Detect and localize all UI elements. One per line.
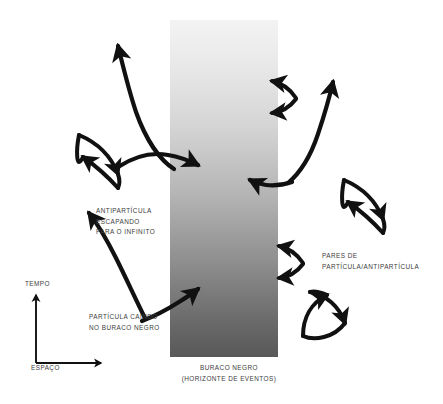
label-particle-falling: PARTÍCULA CAINDO NO BURACO NEGRO <box>89 312 160 333</box>
antiparticle-escape-trajectory <box>118 46 174 169</box>
label-antiparticle-escaping: ANTIPARTÍCULA ESCAPANDO PARA O INFINITO <box>96 206 155 238</box>
event-horizon-band <box>170 20 278 357</box>
particle-pair-loop <box>77 135 119 188</box>
hawking-radiation-diagram: ANTIPARTÍCULA ESCAPANDO PARA O INFINITO … <box>0 0 443 404</box>
particle-pair-loop <box>279 246 303 278</box>
axis-label-time: TEMPO <box>25 279 50 290</box>
particle-pair-loop <box>303 292 345 339</box>
axis-label-space: ESPAÇO <box>31 363 60 374</box>
particle-pair-loop <box>342 180 384 233</box>
diagram-canvas <box>0 0 443 404</box>
label-black-hole-event-horizon: BURACO NEGRO (HORIZONTE DE EVENTOS) <box>173 363 285 384</box>
label-particle-antiparticle-pairs: PARES DE PARTÍCULA/ANTIPARTÍCULA <box>322 251 419 272</box>
